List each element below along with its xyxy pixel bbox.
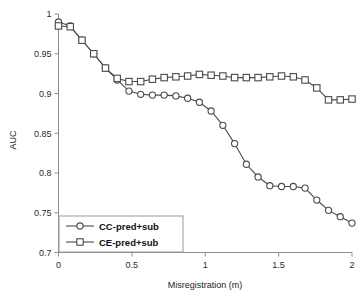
square-marker bbox=[255, 74, 261, 80]
square-marker bbox=[267, 74, 273, 80]
y-axis-ticks: 0.70.750.80.850.90.951 bbox=[34, 9, 59, 257]
square-marker bbox=[243, 74, 249, 80]
circle-marker bbox=[196, 99, 202, 105]
circle-marker bbox=[243, 161, 249, 167]
square-marker bbox=[208, 72, 214, 78]
series-line bbox=[59, 26, 353, 100]
square-marker bbox=[67, 24, 73, 30]
y-tick-label: 1 bbox=[46, 9, 51, 19]
x-tick-label: 0 bbox=[56, 260, 61, 270]
square-marker bbox=[337, 97, 343, 103]
circle-marker bbox=[267, 183, 273, 189]
square-marker bbox=[79, 37, 85, 43]
square-marker bbox=[161, 74, 167, 80]
x-tick-label: 0.5 bbox=[126, 260, 139, 270]
square-marker bbox=[77, 239, 83, 245]
y-tick-label: 0.8 bbox=[39, 168, 52, 178]
x-tick-label: 2 bbox=[349, 260, 354, 270]
square-marker bbox=[126, 78, 132, 84]
y-tick-label: 0.75 bbox=[34, 208, 52, 218]
y-tick-label: 0.85 bbox=[34, 129, 52, 139]
square-marker bbox=[102, 65, 108, 71]
circle-marker bbox=[126, 88, 132, 94]
circle-marker bbox=[77, 223, 83, 229]
x-axis-ticks: 00.511.52 bbox=[56, 253, 355, 270]
series-ce-pred-sub bbox=[55, 23, 355, 103]
square-marker bbox=[278, 73, 284, 79]
square-marker bbox=[184, 73, 190, 79]
x-tick-label: 1 bbox=[203, 260, 208, 270]
circle-marker bbox=[302, 185, 308, 191]
series-cc-pred-sub bbox=[55, 19, 355, 226]
circle-marker bbox=[325, 207, 331, 213]
circle-marker bbox=[337, 214, 343, 220]
circle-marker bbox=[232, 140, 238, 146]
circle-marker bbox=[208, 108, 214, 114]
square-marker bbox=[220, 73, 226, 79]
square-marker bbox=[149, 76, 155, 82]
square-marker bbox=[325, 97, 331, 103]
circle-marker bbox=[314, 197, 320, 203]
circle-marker bbox=[290, 183, 296, 189]
data-series-group bbox=[55, 19, 355, 226]
square-marker bbox=[314, 85, 320, 91]
x-axis-title: Misregistration (m) bbox=[168, 280, 243, 290]
square-marker bbox=[173, 74, 179, 80]
square-marker bbox=[114, 75, 120, 81]
square-marker bbox=[91, 51, 97, 57]
circle-marker bbox=[185, 95, 191, 101]
circle-marker bbox=[349, 220, 355, 226]
square-marker bbox=[302, 77, 308, 83]
circle-marker bbox=[220, 122, 226, 128]
circle-marker bbox=[138, 91, 144, 97]
square-marker bbox=[349, 96, 355, 102]
y-tick-label: 0.95 bbox=[34, 49, 52, 59]
auc-vs-misregistration-chart: 0.70.750.80.850.90.951 00.511.52 AUC Mis… bbox=[0, 0, 364, 296]
chart-legend: CC-pred+sub CE-pred+sub bbox=[59, 216, 183, 252]
circle-marker bbox=[255, 174, 261, 180]
square-marker bbox=[137, 78, 143, 84]
chart-canvas: 0.70.750.80.850.90.951 00.511.52 AUC Mis… bbox=[0, 0, 364, 296]
legend-label-ce: CE-pred+sub bbox=[99, 237, 159, 248]
circle-marker bbox=[278, 183, 284, 189]
x-tick-label: 1.5 bbox=[272, 260, 285, 270]
y-tick-label: 0.9 bbox=[39, 89, 52, 99]
square-marker bbox=[196, 71, 202, 77]
square-marker bbox=[55, 23, 61, 29]
circle-marker bbox=[161, 92, 167, 98]
square-marker bbox=[231, 74, 237, 80]
series-line bbox=[59, 22, 353, 223]
y-axis-title: AUC bbox=[8, 130, 18, 150]
y-tick-label: 0.7 bbox=[39, 248, 52, 258]
circle-marker bbox=[173, 93, 179, 99]
square-marker bbox=[290, 74, 296, 80]
circle-marker bbox=[149, 92, 155, 98]
legend-label-cc: CC-pred+sub bbox=[99, 221, 159, 232]
